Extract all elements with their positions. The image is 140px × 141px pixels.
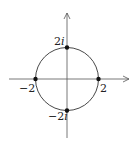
diagram-canvas: 2i 2 −2 −2i: [0, 0, 140, 141]
point-2: [96, 77, 100, 81]
label-neg2: −2: [19, 82, 35, 95]
label-2: 2: [100, 82, 107, 95]
point-neg2: [33, 77, 37, 81]
label-neg2i: −2i: [48, 110, 68, 123]
complex-plane-figure: 2i 2 −2 −2i: [0, 0, 140, 141]
point-2i: [65, 45, 69, 49]
label-2i: 2i: [54, 35, 65, 48]
